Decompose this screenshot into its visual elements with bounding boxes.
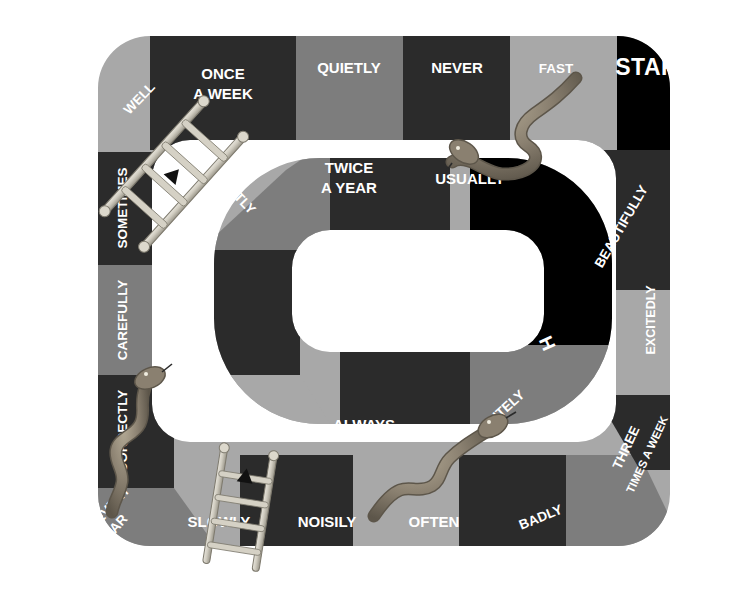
cell-never-fill [403,20,510,150]
label-noisily: NOISILY [298,513,357,530]
label-carefully: CAREFULLY [115,280,130,361]
label-always: ALWAYS [333,416,395,433]
label-once: ONCE [175,290,190,329]
label-once-a-week-l1: ONCE [201,65,244,82]
label-excitedly: EXCITEDLY [644,285,658,355]
cell-quietly-fill [296,20,403,150]
label-fast: FAST [539,61,574,76]
label-start: START [615,54,692,80]
label-a-year: A YEAR [321,179,377,196]
label-twice: TWICE [325,159,373,176]
board-svg: WELL ONCE A WEEK QUIETLY NEVER FAST STAR… [0,0,744,594]
label-often: OFTEN [409,513,460,530]
label-never: NEVER [431,59,483,76]
label-quietly: QUIETLY [317,59,381,76]
board-game-canvas: WELL ONCE A WEEK QUIETLY NEVER FAST STAR… [0,0,744,594]
label-a-month: A MONTH [195,279,210,342]
